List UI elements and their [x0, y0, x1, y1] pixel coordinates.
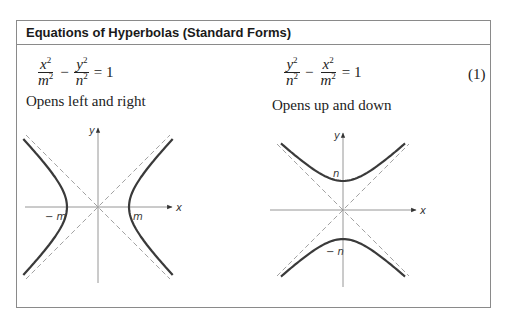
left-hyperbola-graph: x y − m m: [23, 125, 182, 283]
y-axis-label: y: [333, 130, 341, 141]
graphs-canvas: x y − m m x y − n n: [0, 0, 509, 327]
x-axis-label: x: [419, 205, 426, 216]
right-hyperbola-graph: x y − n n: [270, 130, 426, 287]
vertex-label-negative: − m: [45, 211, 67, 222]
x-axis-label: x: [175, 202, 182, 213]
y-axis-label: y: [88, 125, 96, 136]
vertex-label-negative: − n: [326, 246, 344, 257]
vertex-label-positive: n: [333, 168, 339, 179]
vertex-label-positive: m: [133, 211, 143, 222]
